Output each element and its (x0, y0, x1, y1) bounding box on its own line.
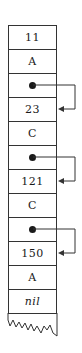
memory-stack: 11 A 23 C 121 C 150 A nil (8, 25, 57, 314)
cell-label: 150 (21, 247, 44, 260)
pointer-dot-icon (29, 154, 36, 161)
cell-label: 11 (25, 31, 40, 44)
cell-value: A (8, 265, 57, 289)
pointer-dot-icon (29, 82, 36, 89)
cell-value: C (8, 193, 57, 217)
cell-label: 121 (21, 175, 44, 188)
cell-value: A (8, 49, 57, 73)
arrowhead-icon (58, 178, 64, 184)
cell-nil: nil (8, 289, 57, 314)
cell-pointer (8, 73, 57, 97)
cell-value: C (8, 121, 57, 145)
pointer-dot-icon (29, 226, 36, 233)
torn-edge-icon (8, 313, 57, 336)
cell-label: 23 (25, 103, 40, 116)
cell-pointer (8, 217, 57, 241)
cell-value: 121 (8, 169, 57, 193)
arrowhead-icon (58, 106, 64, 112)
cell-label: A (28, 55, 36, 68)
cell-label: nil (25, 295, 41, 308)
arrowhead-icon (58, 250, 64, 256)
cell-value: 150 (8, 241, 57, 265)
cell-label: C (28, 127, 37, 140)
cell-value: 11 (8, 25, 57, 49)
cell-pointer (8, 145, 57, 169)
cell-label: C (28, 199, 37, 212)
cell-label: A (28, 271, 36, 284)
cell-value: 23 (8, 97, 57, 121)
